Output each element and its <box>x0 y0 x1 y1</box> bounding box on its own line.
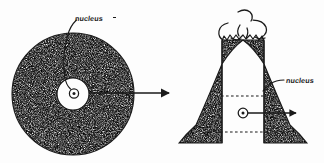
label-nucleus-left: nucleus <box>74 14 103 23</box>
nucleus-symbol-right <box>238 108 248 118</box>
nucleus-symbol-left <box>69 89 78 98</box>
volcano-right-flank <box>240 35 315 150</box>
diagram-artwork <box>0 0 324 163</box>
diagram-canvas: nucleus nucleus <box>0 0 324 163</box>
label-nucleus-right: nucleus <box>285 76 314 85</box>
label-left-dash-mark <box>113 17 116 18</box>
volcano-left-flank <box>175 35 250 150</box>
left-stippled-circle-group <box>10 20 138 160</box>
